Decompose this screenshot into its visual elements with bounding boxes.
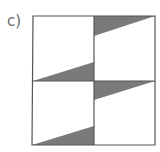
triangle-bottom-right-cell (94, 81, 155, 100)
triangle-top-right-cell (94, 16, 155, 36)
triangle-bottom-left-cell (32, 126, 94, 145)
square-grid-diagram (0, 0, 160, 152)
triangle-top-left-cell (33, 62, 94, 81)
